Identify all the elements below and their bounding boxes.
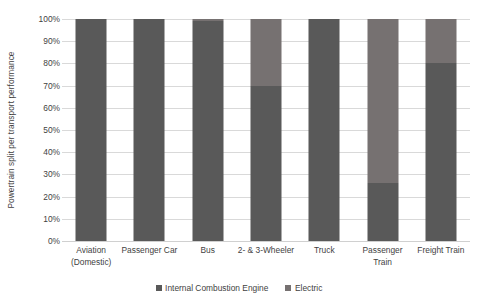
stacked-bar[interactable] bbox=[76, 19, 107, 241]
stacked-bar[interactable] bbox=[250, 19, 281, 241]
bar-segment-internal-combustion-engine[interactable] bbox=[425, 63, 456, 241]
x-axis-tick-label-line: Train bbox=[353, 257, 411, 269]
stacked-bar[interactable] bbox=[367, 19, 398, 241]
gridline bbox=[62, 241, 470, 242]
legend-item-label: Internal Combustion Engine bbox=[165, 283, 268, 293]
y-axis-tick-label: 30% bbox=[26, 169, 60, 179]
legend-item-label: Electric bbox=[295, 283, 322, 293]
bar-segment-internal-combustion-engine[interactable] bbox=[192, 21, 223, 241]
y-axis-tick-label: 10% bbox=[26, 214, 60, 224]
x-axis-tick-label-line: Bus bbox=[179, 245, 237, 257]
chart-legend: Internal Combustion EngineElectric bbox=[0, 283, 478, 293]
bar-slot bbox=[179, 19, 237, 241]
x-axis-tick-label-line: Freight Train bbox=[412, 245, 470, 257]
x-axis-tick-label-line: 2- & 3-Wheeler bbox=[237, 245, 295, 257]
y-axis-title: Powertrain split per transport performan… bbox=[0, 0, 22, 260]
legend-swatch-icon bbox=[156, 285, 162, 291]
x-axis-tick-label-line: Aviation bbox=[62, 245, 120, 257]
x-axis-tick-label-line: (Domestic) bbox=[62, 257, 120, 269]
x-axis-tick-label: Aviation(Domestic) bbox=[62, 245, 120, 268]
bar-segment-internal-combustion-engine[interactable] bbox=[76, 19, 107, 241]
x-axis-tick-label: 2- & 3-Wheeler bbox=[237, 245, 295, 257]
y-axis-tick-label: 80% bbox=[26, 58, 60, 68]
bar-segment-internal-combustion-engine[interactable] bbox=[250, 86, 281, 241]
x-axis-tick-label: Freight Train bbox=[412, 245, 470, 257]
y-axis-title-text: Powertrain split per transport performan… bbox=[6, 51, 16, 208]
bar-segment-internal-combustion-engine[interactable] bbox=[309, 19, 340, 241]
bar-slot bbox=[353, 19, 411, 241]
legend-swatch-icon bbox=[285, 285, 291, 291]
bar-slot bbox=[237, 19, 295, 241]
y-axis-tick-label: 70% bbox=[26, 81, 60, 91]
bar-segment-internal-combustion-engine[interactable] bbox=[367, 183, 398, 241]
x-axis-tick-label: Bus bbox=[179, 245, 237, 257]
bar-segment-internal-combustion-engine[interactable] bbox=[134, 19, 165, 241]
bar-slot bbox=[295, 19, 353, 241]
legend-item[interactable]: Electric bbox=[285, 283, 322, 293]
x-axis-tick-labels: Aviation(Domestic)Passenger CarBus2- & 3… bbox=[62, 245, 470, 279]
bar-slot bbox=[62, 19, 120, 241]
stacked-bar[interactable] bbox=[425, 19, 456, 241]
y-axis-tick-label: 100% bbox=[26, 14, 60, 24]
bar-slot bbox=[412, 19, 470, 241]
bar-segment-electric[interactable] bbox=[425, 19, 456, 63]
legend-item[interactable]: Internal Combustion Engine bbox=[156, 283, 269, 293]
x-axis-tick-label: Truck bbox=[295, 245, 353, 257]
x-axis-tick-label-line: Passenger Car bbox=[120, 245, 178, 257]
bar-slot bbox=[120, 19, 178, 241]
y-axis-tick-label: 50% bbox=[26, 125, 60, 135]
bar-group bbox=[62, 19, 470, 241]
y-axis-tick-label: 90% bbox=[26, 36, 60, 46]
y-axis-tick-label: 20% bbox=[26, 192, 60, 202]
x-axis-tick-label: PassengerTrain bbox=[353, 245, 411, 268]
y-axis-tick-label: 60% bbox=[26, 103, 60, 113]
chart-container: Powertrain split per transport performan… bbox=[0, 0, 478, 307]
bar-segment-electric[interactable] bbox=[367, 19, 398, 183]
x-axis-tick-label-line: Passenger bbox=[353, 245, 411, 257]
x-axis-tick-label-line: Truck bbox=[295, 245, 353, 257]
x-axis-tick-label: Passenger Car bbox=[120, 245, 178, 257]
stacked-bar[interactable] bbox=[309, 19, 340, 241]
stacked-bar[interactable] bbox=[192, 19, 223, 241]
bar-segment-electric[interactable] bbox=[250, 19, 281, 86]
stacked-bar[interactable] bbox=[134, 19, 165, 241]
y-axis-tick-labels: 100%90%80%70%60%50%40%30%20%10%0% bbox=[20, 19, 60, 241]
y-axis-tick-label: 0% bbox=[26, 236, 60, 246]
y-axis-tick-label: 40% bbox=[26, 147, 60, 157]
